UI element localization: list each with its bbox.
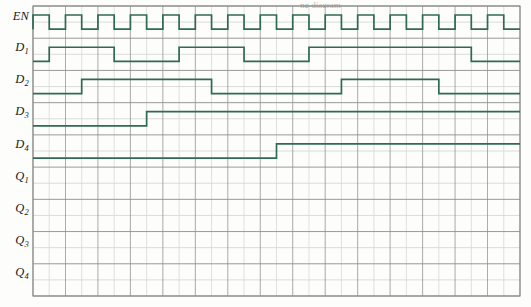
- timing-diagram-figure: ng diagram END1D2D3D4Q1Q2Q3Q4: [0, 0, 531, 307]
- timing-grid-plot: [0, 0, 531, 307]
